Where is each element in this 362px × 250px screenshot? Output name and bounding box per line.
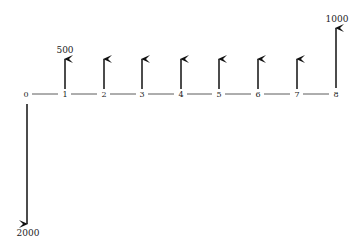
period-label-0: 0	[23, 90, 28, 99]
amount-label-period-8: 1000	[326, 14, 349, 24]
period-label-3: 3	[139, 90, 144, 99]
period-label-4: 4	[178, 90, 183, 99]
period-label-6: 6	[255, 90, 260, 99]
amount-label-period-1: 500	[56, 45, 73, 55]
period-label-2: 2	[101, 90, 106, 99]
period-label-8: 8	[333, 90, 338, 99]
period-label-7: 7	[294, 90, 299, 99]
period-label-1: 1	[62, 90, 67, 99]
amount-label-period-0: 2000	[17, 228, 40, 238]
cash-flow-diagram: 0 1 2 3 4 5 6 7 8 500 1000 2000	[0, 0, 362, 250]
inflow-arrows	[65, 28, 336, 89]
period-labels: 0 1 2 3 4 5 6 7 8	[23, 90, 338, 99]
period-label-5: 5	[216, 90, 221, 99]
